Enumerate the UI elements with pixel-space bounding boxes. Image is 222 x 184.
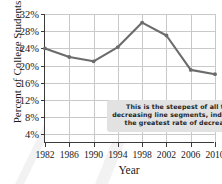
data-point: [116, 45, 120, 49]
x-axis-tick-label: 2010: [205, 149, 222, 160]
data-point: [140, 21, 144, 25]
x-axis-tick-label: 2002: [157, 149, 176, 160]
data-point: [43, 47, 47, 51]
x-axis-tick-label: 1994: [108, 149, 127, 160]
y-axis-tick-label: 8%: [5, 112, 39, 123]
y-axis-tick-label: 24%: [5, 43, 39, 54]
y-axis-tick-label: 12%: [5, 95, 39, 106]
data-point: [213, 72, 217, 76]
plot-area: 4%8%12%16%20%24%28%32% 19821986199019941…: [44, 14, 214, 143]
series-markers: [43, 21, 217, 76]
data-point: [165, 34, 169, 38]
steepest-segment-callout: This is the steepest of all the decreasi…: [107, 100, 222, 132]
line-chart: Percent of College Students 4%8%12%16%20…: [0, 0, 222, 184]
data-point: [67, 55, 71, 59]
x-axis-tick-label: 2006: [181, 149, 200, 160]
callout-line-3: the greatest rate of decrease.: [111, 119, 222, 127]
y-axis-tick-label: 20%: [5, 60, 39, 71]
callout-line-2: decreasing line segments, indicating: [111, 111, 222, 119]
series-polyline: [45, 23, 215, 75]
y-axis-tick-label: 28%: [5, 26, 39, 37]
x-axis-tick-label: 1998: [133, 149, 152, 160]
x-axis-title: Year: [44, 164, 214, 176]
y-axis-tick-label: 32%: [5, 9, 39, 20]
y-axis-tick-label: 4%: [5, 129, 39, 140]
x-axis-tick-label: 1990: [84, 149, 103, 160]
x-axis-tick-label: 1986: [60, 149, 79, 160]
y-axis-tick-label: 16%: [5, 77, 39, 88]
data-point: [189, 68, 193, 72]
x-axis-tick: [215, 142, 216, 147]
x-axis-tick-label: 1982: [35, 149, 54, 160]
data-point: [92, 59, 96, 63]
callout-line-1: This is the steepest of all the: [111, 103, 222, 111]
